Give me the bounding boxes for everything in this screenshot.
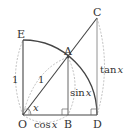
label-c: C bbox=[93, 6, 101, 19]
label-radius-oe: 1 bbox=[12, 74, 18, 85]
label-e: E bbox=[17, 28, 25, 41]
label-radius-oa: 1 bbox=[38, 74, 44, 85]
right-angle-b bbox=[62, 109, 68, 115]
dashed-brace-ab bbox=[68, 57, 75, 115]
label-o: O bbox=[18, 118, 27, 131]
label-angle-x: x bbox=[33, 102, 39, 113]
label-tan: tanx bbox=[100, 64, 123, 75]
label-a: A bbox=[63, 45, 73, 58]
label-d: D bbox=[93, 118, 102, 131]
label-sin: sinx bbox=[70, 87, 92, 98]
label-b: B bbox=[64, 118, 72, 131]
line-oc bbox=[23, 18, 97, 115]
label-cos: cosx bbox=[34, 119, 58, 130]
right-angle-d bbox=[91, 109, 97, 115]
unit-circle-diagram: E A C O B D 1 1 x cosx sinx tanx bbox=[0, 0, 126, 134]
angle-arc bbox=[28, 109, 31, 116]
